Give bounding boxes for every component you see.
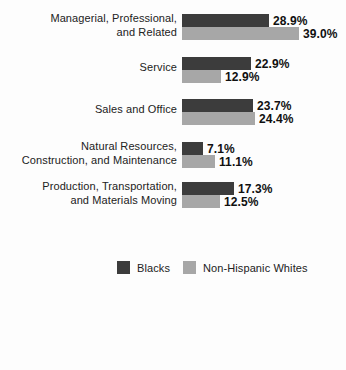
chart-row: Natural Resources,Construction, and Main… bbox=[0, 142, 346, 168]
value-label-blacks: 28.9% bbox=[273, 14, 308, 28]
bar-line-non-hispanic-whites: 39.0% bbox=[182, 27, 338, 40]
value-label-blacks: 17.3% bbox=[238, 182, 273, 196]
legend-label-blacks: Blacks bbox=[137, 262, 170, 274]
bar-group: 22.9% 12.9% bbox=[182, 57, 290, 83]
bar-blacks bbox=[182, 99, 253, 112]
bar-blacks bbox=[182, 14, 269, 27]
value-label-non-hispanic-whites: 12.9% bbox=[225, 70, 260, 84]
chart-row: Sales and Office 23.7% 24.4% bbox=[0, 99, 346, 125]
chart-row: Managerial, Professional,and Related 28.… bbox=[0, 14, 346, 40]
bar-line-blacks: 28.9% bbox=[182, 14, 338, 27]
bar-non-hispanic-whites bbox=[182, 70, 221, 83]
value-label-blacks: 22.9% bbox=[255, 57, 290, 71]
legend-swatch-non-hispanic-whites bbox=[183, 261, 196, 274]
bar-line-blacks: 23.7% bbox=[182, 99, 294, 112]
bar-line-non-hispanic-whites: 12.9% bbox=[182, 70, 290, 83]
category-label: Natural Resources,Construction, and Main… bbox=[0, 140, 177, 167]
legend-swatch-blacks bbox=[117, 261, 130, 274]
bar-blacks bbox=[182, 182, 234, 195]
bar-group: 23.7% 24.4% bbox=[182, 99, 294, 125]
bar-line-non-hispanic-whites: 24.4% bbox=[182, 112, 294, 125]
bar-non-hispanic-whites bbox=[182, 112, 255, 125]
legend-item-blacks: Blacks bbox=[117, 261, 170, 274]
bar-non-hispanic-whites bbox=[182, 27, 299, 40]
bar-blacks bbox=[182, 57, 251, 70]
value-label-non-hispanic-whites: 12.5% bbox=[224, 195, 259, 209]
grouped-bar-chart: Managerial, Professional,and Related 28.… bbox=[0, 0, 346, 370]
bar-blacks bbox=[182, 142, 203, 155]
bar-line-non-hispanic-whites: 12.5% bbox=[182, 195, 273, 208]
category-label: Service bbox=[0, 61, 177, 75]
bar-group: 17.3% 12.5% bbox=[182, 182, 273, 208]
value-label-non-hispanic-whites: 11.1% bbox=[219, 155, 253, 169]
category-label: Sales and Office bbox=[0, 103, 177, 117]
value-label-blacks: 7.1% bbox=[207, 142, 235, 156]
bar-group: 28.9% 39.0% bbox=[182, 14, 338, 40]
bar-line-blacks: 17.3% bbox=[182, 182, 273, 195]
category-label: Managerial, Professional,and Related bbox=[0, 12, 177, 39]
value-label-blacks: 23.7% bbox=[257, 99, 292, 113]
legend-item-non-hispanic-whites: Non-Hispanic Whites bbox=[183, 261, 308, 274]
bar-line-non-hispanic-whites: 11.1% bbox=[182, 155, 253, 168]
bar-group: 7.1% 11.1% bbox=[182, 142, 253, 168]
value-label-non-hispanic-whites: 24.4% bbox=[259, 112, 294, 126]
category-label: Production, Transportation,and Materials… bbox=[0, 180, 177, 207]
chart-row: Production, Transportation,and Materials… bbox=[0, 182, 346, 208]
bar-line-blacks: 7.1% bbox=[182, 142, 253, 155]
bar-line-blacks: 22.9% bbox=[182, 57, 290, 70]
chart-row: Service 22.9% 12.9% bbox=[0, 57, 346, 83]
bar-non-hispanic-whites bbox=[182, 195, 220, 208]
bar-non-hispanic-whites bbox=[182, 155, 215, 168]
value-label-non-hispanic-whites: 39.0% bbox=[303, 27, 338, 41]
legend: Blacks Non-Hispanic Whites bbox=[117, 261, 308, 274]
legend-label-non-hispanic-whites: Non-Hispanic Whites bbox=[203, 262, 308, 274]
